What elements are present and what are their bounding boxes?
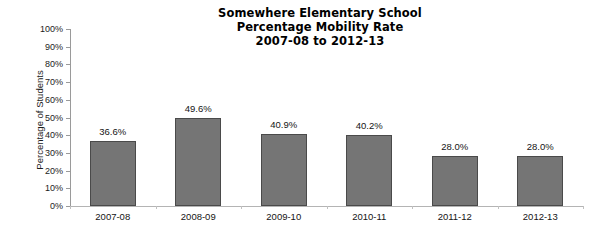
bar[interactable] (517, 156, 563, 206)
x-axis-category-label: 2007-08 (95, 211, 130, 222)
plot-area: 0%10%20%30%40%50%60%70%80%90%100%36.6%49… (70, 29, 583, 206)
bar[interactable] (90, 141, 136, 206)
bar-value-label: 49.6% (185, 103, 212, 114)
x-axis-tick-mark (412, 206, 413, 209)
bar-value-label: 28.0% (441, 141, 468, 152)
bar-group: 36.6% (70, 29, 156, 206)
bar-value-label: 40.2% (356, 120, 383, 131)
bar-group: 40.2% (327, 29, 413, 206)
y-axis-title-label: Percentage of Students (34, 70, 45, 169)
x-axis-tick-mark (156, 206, 157, 209)
x-axis-category-label: 2012-13 (523, 211, 558, 222)
bar-group: 28.0% (412, 29, 498, 206)
bar-group: 40.9% (241, 29, 327, 206)
x-axis-tick-mark (241, 206, 242, 209)
bar[interactable] (261, 134, 307, 206)
bar[interactable] (432, 156, 478, 206)
x-axis-category-label: 2010-11 (352, 211, 386, 222)
y-axis-tick-label: 80% (45, 59, 63, 69)
y-axis-tick-label: 40% (45, 130, 63, 140)
y-axis-tick-label: 10% (45, 183, 63, 193)
y-axis-tick-label: 70% (45, 77, 63, 87)
bar-group: 28.0% (498, 29, 584, 206)
y-axis-tick-label: 30% (45, 148, 63, 158)
bar-group: 49.6% (156, 29, 242, 206)
y-axis-tick-label: 20% (45, 166, 63, 176)
y-axis-tick-label: 50% (45, 113, 63, 123)
x-axis-tick-mark (70, 206, 71, 209)
x-axis-category-label: 2008-09 (181, 211, 216, 222)
bar[interactable] (346, 135, 392, 206)
chart-title-line-1: Somewhere Elementary School (150, 6, 490, 20)
bar-value-label: 40.9% (270, 119, 297, 130)
x-axis-tick-mark (498, 206, 499, 209)
y-axis-tick-label: 100% (40, 24, 63, 34)
y-axis-title: Percentage of Students (32, 45, 46, 195)
y-axis-tick-label: 60% (45, 95, 63, 105)
x-axis-category-label: 2011-12 (438, 211, 472, 222)
x-axis-category-label: 2009-10 (266, 211, 301, 222)
y-axis-tick-label: 0% (50, 201, 63, 211)
x-axis-tick-mark (327, 206, 328, 209)
bar[interactable] (175, 118, 221, 206)
bar-value-label: 36.6% (99, 126, 126, 137)
y-axis-tick-label: 90% (45, 42, 63, 52)
x-axis-tick-mark (583, 206, 584, 209)
bar-value-label: 28.0% (527, 141, 554, 152)
